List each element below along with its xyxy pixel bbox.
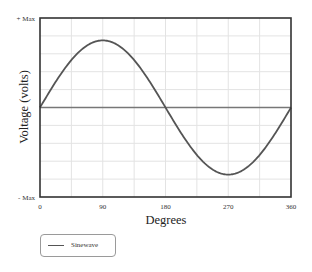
x-tick-label: 0 (38, 203, 42, 211)
legend-label-sinewave: Sinewave (71, 241, 98, 249)
x-tick-label: 360 (286, 203, 297, 211)
y-axis-title: Voltage (volts) (17, 70, 31, 144)
y-tick-min: - Max (18, 194, 35, 202)
x-tick-label: 270 (223, 203, 234, 211)
x-tick-label: 90 (99, 203, 107, 211)
legend: Sinewave (40, 234, 116, 257)
x-tick-labels: 090180270360 (38, 203, 297, 211)
legend-line-swatch (48, 245, 64, 246)
y-tick-max: + Max (16, 15, 35, 23)
sinewave-chart: + Max - Max 090180270360 Degrees Voltage… (0, 0, 312, 272)
x-tick-label: 180 (160, 203, 171, 211)
x-axis-title: Degrees (146, 213, 187, 227)
